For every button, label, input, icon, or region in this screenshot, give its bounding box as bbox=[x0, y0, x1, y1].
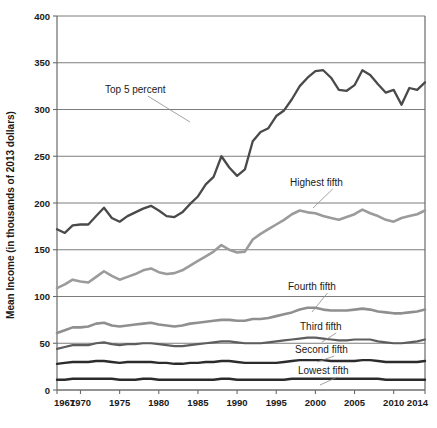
y-tick-label: 350 bbox=[34, 57, 50, 68]
series-annotation: Highest fifth bbox=[290, 177, 343, 188]
x-tick-label: 1995 bbox=[266, 397, 288, 408]
y-tick-label: 0 bbox=[45, 385, 50, 396]
y-tick-label: 50 bbox=[39, 338, 50, 349]
gridlines bbox=[57, 16, 425, 390]
series-annotation: Lowest fifth bbox=[298, 365, 349, 376]
series-annotations: Top 5 percentHighest fifthFourth fifthTh… bbox=[105, 84, 349, 376]
y-axis-title: Mean Income (in thousands of 2013 dollar… bbox=[5, 111, 16, 319]
x-tick-label: 1975 bbox=[109, 397, 131, 408]
x-tick-label: 1985 bbox=[187, 397, 209, 408]
x-tick-label: 1980 bbox=[148, 397, 169, 408]
x-tick-label: 2010 bbox=[383, 397, 404, 408]
y-tick-label: 100 bbox=[34, 291, 50, 302]
series-lines bbox=[57, 70, 425, 379]
x-tick-label: 1970 bbox=[70, 397, 91, 408]
x-tick-label: 2000 bbox=[305, 397, 326, 408]
chart-container: 050100150200250300350400 196719701975198… bbox=[0, 0, 437, 428]
y-tick-label: 250 bbox=[34, 151, 50, 162]
series-annotation: Top 5 percent bbox=[105, 84, 166, 95]
y-tick-label: 200 bbox=[34, 198, 50, 209]
x-tick-label: 2005 bbox=[344, 397, 366, 408]
x-tick-label: 2014 bbox=[407, 397, 429, 408]
series-line bbox=[57, 210, 425, 289]
series-annotation: Second fifth bbox=[295, 344, 348, 355]
series-line bbox=[57, 308, 425, 333]
x-tick-labels: 1967197019751980198519901995200020052010… bbox=[54, 397, 429, 408]
line-chart: 050100150200250300350400 196719701975198… bbox=[0, 0, 437, 428]
y-tick-label: 150 bbox=[34, 244, 50, 255]
y-tick-label: 300 bbox=[34, 104, 50, 115]
y-tick-label: 400 bbox=[34, 11, 50, 22]
x-tick-label: 1990 bbox=[227, 397, 248, 408]
y-tick-labels: 050100150200250300350400 bbox=[34, 11, 50, 396]
series-annotation: Fourth fifth bbox=[288, 281, 336, 292]
series-line bbox=[57, 360, 425, 364]
series-annotation: Third fifth bbox=[300, 321, 342, 332]
annotation-leader-lines bbox=[148, 96, 338, 385]
series-line bbox=[57, 379, 425, 380]
